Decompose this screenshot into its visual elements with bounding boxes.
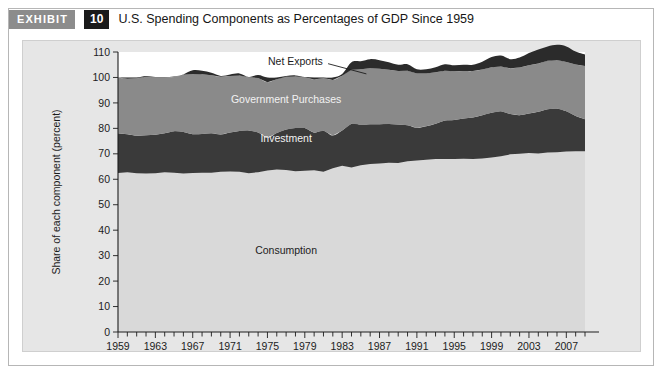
x-tick-label: 1995 — [443, 340, 467, 352]
x-tick-label: 1979 — [293, 340, 317, 352]
y-tick-label: 70 — [98, 147, 110, 159]
y-tick-label: 60 — [98, 173, 110, 185]
x-tick-label: 2003 — [517, 340, 541, 352]
x-tick-label: 1999 — [480, 340, 504, 352]
x-tick-label: 1959 — [106, 340, 130, 352]
x-tick-label: 1991 — [405, 340, 429, 352]
stacked-area-chart: 0102030405060708090100110Share of each c… — [22, 40, 641, 352]
x-tick-label: 2007 — [555, 340, 579, 352]
y-tick-label: 90 — [98, 97, 110, 109]
y-tick-label: 100 — [92, 71, 110, 83]
exhibit-number-badge: 10 — [84, 10, 109, 29]
y-tick-label: 0 — [104, 326, 110, 338]
x-tick-label: 1975 — [256, 340, 280, 352]
x-tick-label: 1963 — [144, 340, 168, 352]
x-tick-label: 1967 — [181, 340, 205, 352]
annotation-government-purchases: Government Purchases — [231, 93, 341, 105]
area-consumption — [118, 151, 585, 332]
y-tick-label: 30 — [98, 249, 110, 261]
annotation-investment: Investment — [260, 132, 311, 144]
y-tick-label: 20 — [98, 275, 110, 287]
y-axis-title: Share of each component (percent) — [50, 109, 62, 274]
exhibit-tag-label: EXHIBIT — [9, 10, 75, 29]
y-tick-label: 110 — [93, 46, 110, 58]
exhibit-root: EXHIBIT 10 U.S. Spending Components as P… — [0, 0, 664, 376]
annotation-net-exports: Net Exports — [268, 55, 323, 67]
annotation-consumption: Consumption — [255, 244, 317, 256]
x-tick-label: 1971 — [218, 340, 242, 352]
x-tick-label: 1987 — [368, 340, 392, 352]
y-tick-label: 80 — [98, 122, 110, 134]
y-tick-label: 10 — [98, 300, 110, 312]
exhibit-header: EXHIBIT 10 U.S. Spending Components as P… — [9, 9, 474, 29]
y-tick-label: 40 — [98, 224, 110, 236]
y-tick-label: 50 — [98, 198, 110, 210]
exhibit-title: U.S. Spending Components as Percentages … — [118, 12, 474, 26]
x-tick-label: 1983 — [330, 340, 354, 352]
